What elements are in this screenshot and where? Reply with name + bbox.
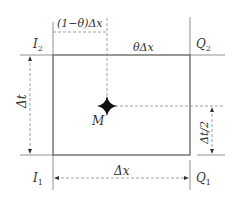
label-theta-dx: θΔx (133, 41, 155, 54)
label-dx: Δx (113, 164, 130, 178)
label-dt-half: Δt/2 (198, 121, 211, 145)
label-one-minus-theta-dx: (1−θ)Δx (57, 17, 103, 30)
label-M: M (91, 114, 105, 128)
label-dt: Δt (15, 94, 29, 109)
label-I1: I1 (32, 171, 43, 187)
numerical-scheme-diagram: (1−θ)Δx θΔx I2 Q2 I1 Q1 Δt Δt/2 Δx M (0, 0, 234, 203)
m-point-marker (97, 96, 117, 116)
label-Q2: Q2 (196, 37, 211, 53)
label-Q1: Q1 (196, 171, 211, 187)
computational-cell (53, 55, 190, 155)
label-I2: I2 (32, 37, 43, 53)
